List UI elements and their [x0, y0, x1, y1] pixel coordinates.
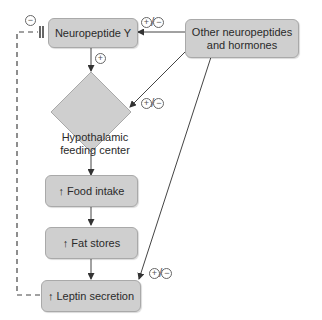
node-fat-stores: ↑ Fat stores	[45, 227, 138, 259]
hypo-line2: feeding center	[56, 144, 134, 157]
increase-arrow-icon: ↑	[48, 290, 54, 303]
other-to-npy-sign: +/−	[141, 15, 164, 29]
node-other-label-line2: and hormones	[207, 39, 277, 52]
node-food-intake: ↑ Food intake	[45, 175, 138, 207]
node-hypothalamic-label: Hypothalamic feeding center	[56, 131, 134, 157]
plus-circle-icon: +	[95, 53, 106, 64]
increase-arrow-icon: ↑	[63, 237, 69, 250]
increase-arrow-icon: ↑	[59, 185, 65, 198]
node-food-intake-label: Food intake	[67, 185, 124, 198]
node-leptin-label: Leptin secretion	[56, 290, 134, 303]
node-fat-stores-label: Fat stores	[71, 237, 120, 250]
npy-to-hypo-sign: +	[95, 51, 106, 64]
other-to-leptin-sign: +/−	[149, 266, 172, 280]
minus-circle-icon: −	[25, 15, 36, 26]
node-other-neuropeptides: Other neuropeptides and hormones	[185, 19, 299, 58]
node-leptin-secretion: ↑ Leptin secretion	[41, 280, 141, 312]
node-neuropeptide-y: Neuropeptide Y	[48, 18, 138, 48]
node-neuropeptide-y-label: Neuropeptide Y	[55, 27, 131, 40]
node-other-label-line1: Other neuropeptides	[192, 26, 292, 39]
minus-circle-icon: −	[161, 268, 172, 279]
hypo-line1: Hypothalamic	[56, 131, 134, 144]
feedback-inhibit-sign: −	[25, 13, 36, 26]
minus-circle-icon: −	[153, 17, 164, 28]
other-to-hypo-sign: +/−	[141, 96, 164, 110]
minus-circle-icon: −	[153, 98, 164, 109]
